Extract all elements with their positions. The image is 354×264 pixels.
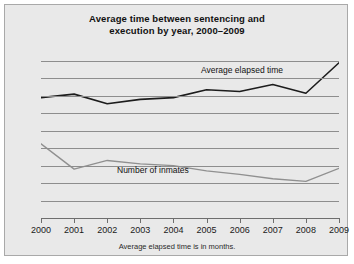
gridline-80 [41, 148, 339, 149]
chart-title-line-2: execution by year, 2000–2009 [5, 25, 349, 37]
x-tick-2007 [273, 218, 274, 223]
line-number-of-inmates [41, 144, 339, 182]
x-tick-label-2001: 2001 [57, 225, 91, 235]
series-lines [41, 61, 339, 218]
chart-footnote: Average elapsed time is in months. [5, 242, 349, 251]
series-label-average-elapsed-time: Average elapsed time [201, 65, 283, 75]
x-tick-label-2007: 2007 [256, 225, 290, 235]
chart-title-line-1: Average time between sentencing and [89, 13, 265, 24]
gridline-120 [41, 113, 339, 114]
x-tick-2006 [240, 218, 241, 223]
x-tick-label-2004: 2004 [156, 225, 190, 235]
x-axis-line [41, 218, 339, 219]
gridline-100 [41, 131, 339, 132]
chart-figure: Average time between sentencing and exec… [4, 4, 348, 256]
x-tick-2004 [173, 218, 174, 223]
x-tick-label-2003: 2003 [123, 225, 157, 235]
x-tick-2005 [207, 218, 208, 223]
gridline-140 [41, 96, 339, 97]
x-tick-2008 [306, 218, 307, 223]
line-average-elapsed-time [41, 63, 339, 104]
series-label-number-of-inmates: Number of inmates [117, 165, 189, 175]
x-tick-label-2005: 2005 [190, 225, 224, 235]
gridline-40 [41, 183, 339, 184]
x-tick-2009 [339, 218, 340, 223]
x-tick-label-2009: 2009 [322, 225, 354, 235]
x-tick-2003 [140, 218, 141, 223]
gridline-180 [41, 61, 339, 62]
gridline-160 [41, 78, 339, 79]
x-tick-label-2000: 2000 [24, 225, 58, 235]
x-tick-2000 [41, 218, 42, 223]
x-tick-label-2002: 2002 [90, 225, 124, 235]
x-tick-2001 [74, 218, 75, 223]
chart-title: Average time between sentencing and exec… [5, 13, 349, 37]
plot-area [41, 61, 339, 218]
x-tick-label-2008: 2008 [289, 225, 323, 235]
x-tick-label-2006: 2006 [223, 225, 257, 235]
gridline-20 [41, 201, 339, 202]
x-tick-2002 [107, 218, 108, 223]
gridline-60 [41, 166, 339, 167]
